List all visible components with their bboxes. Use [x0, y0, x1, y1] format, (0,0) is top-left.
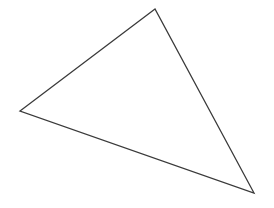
drawing-canvas	[0, 0, 274, 208]
canvas-background	[0, 0, 274, 208]
triangle-svg	[0, 0, 274, 208]
